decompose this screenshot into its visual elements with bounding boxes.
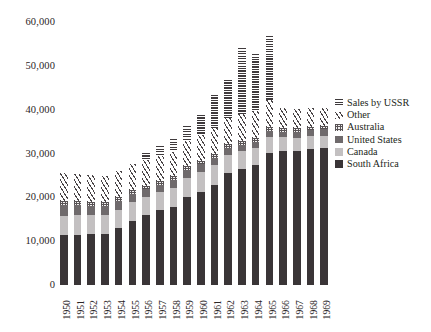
legend-item[interactable]: Sales by USSR <box>335 97 431 109</box>
legend-item[interactable]: Australia <box>335 121 431 133</box>
legend-label: Sales by USSR <box>347 98 409 108</box>
x-axis-tick-label: 1968 <box>304 291 318 315</box>
legend-swatch <box>335 160 343 168</box>
y-axis-tick-label: 10,000 <box>3 236 55 246</box>
legend-label: South Africa <box>347 159 399 169</box>
x-axis-tick-label: 1961 <box>208 291 222 315</box>
x-axis-tick-label: 1969 <box>317 291 331 315</box>
x-axis-tick-label: 1963 <box>235 291 249 315</box>
legend-label: United States <box>347 135 402 145</box>
legend-swatch <box>335 99 343 107</box>
y-axis-tick-label: 0 <box>3 280 55 290</box>
x-axis-tick-label: 1959 <box>180 291 194 315</box>
x-axis-tick-label: 1951 <box>71 291 85 315</box>
legend-swatch <box>335 136 343 144</box>
y-axis-tick-label: 40,000 <box>3 105 55 115</box>
y-axis-tick-label: 20,000 <box>3 192 55 202</box>
chart-legend: Sales by USSROtherAustraliaUnited States… <box>335 97 431 170</box>
x-axis-tick-label: 1957 <box>153 291 167 315</box>
legend-label: Australia <box>347 122 384 132</box>
x-axis-tick-label: 1964 <box>249 291 263 315</box>
legend-swatch <box>335 124 343 132</box>
legend-swatch <box>335 148 343 156</box>
legend-item[interactable]: Canada <box>335 146 431 158</box>
x-axis-tick-label: 1960 <box>194 291 208 315</box>
x-axis-tick-label: 1962 <box>221 291 235 315</box>
x-axis-tick-label: 1967 <box>290 291 304 315</box>
x-axis-tick-label: 1953 <box>98 291 112 315</box>
legend-label: Other <box>347 110 370 120</box>
legend-swatch <box>335 112 343 120</box>
legend-item[interactable]: United States <box>335 134 431 146</box>
x-axis: 1950195119521953195419551956195719581959… <box>57 0 331 332</box>
x-axis-tick-label: 1966 <box>276 291 290 315</box>
y-axis-tick-label: 50,000 <box>3 61 55 71</box>
legend-label: Canada <box>347 147 378 157</box>
x-axis-tick-label: 1955 <box>126 291 140 315</box>
legend-item[interactable]: South Africa <box>335 158 431 170</box>
y-axis: 010,00020,00030,00040,00050,00060,000 <box>0 0 55 332</box>
y-axis-tick-label: 30,000 <box>3 149 55 159</box>
x-axis-tick-label: 1965 <box>263 291 277 315</box>
legend-item[interactable]: Other <box>335 109 431 121</box>
x-axis-tick-label: 1956 <box>139 291 153 315</box>
y-axis-tick-label: 60,000 <box>3 17 55 27</box>
x-axis-tick-label: 1958 <box>167 291 181 315</box>
stacked-bar-chart: 010,00020,00030,00040,00050,00060,000 19… <box>0 0 431 332</box>
x-axis-tick-label: 1954 <box>112 291 126 315</box>
x-axis-tick-label: 1952 <box>84 291 98 315</box>
x-axis-tick-label: 1950 <box>57 291 71 315</box>
